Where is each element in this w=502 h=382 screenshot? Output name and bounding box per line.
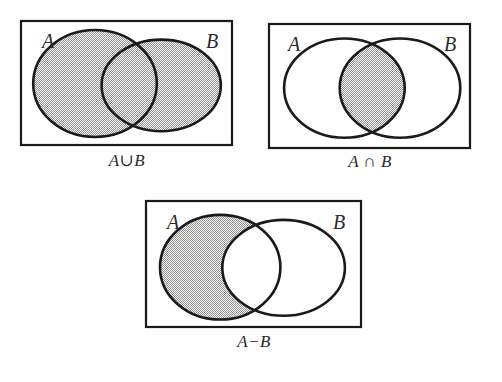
venn-diagram-intersection: A B bbox=[266, 21, 474, 151]
venn-diagram-union: A B bbox=[18, 19, 236, 149]
set-label-a-union: A bbox=[40, 30, 55, 52]
set-label-b-union: B bbox=[206, 30, 218, 52]
caption-intersection: A ∩ B bbox=[266, 152, 474, 172]
panel-union: A B A∪B bbox=[18, 19, 236, 171]
set-label-a-intersection: A bbox=[286, 33, 301, 55]
set-label-b-difference: B bbox=[333, 211, 345, 233]
caption-difference: A−B bbox=[143, 332, 365, 352]
venn-diagram-difference: A B bbox=[143, 199, 365, 331]
venn-figure-page: A B A∪B A bbox=[0, 0, 502, 382]
set-label-a-difference: A bbox=[165, 211, 180, 233]
caption-union: A∪B bbox=[18, 150, 236, 171]
panel-intersection: A B A ∩ B bbox=[266, 21, 474, 172]
set-label-b-intersection: B bbox=[444, 33, 456, 55]
panel-difference: A B A−B bbox=[143, 199, 365, 352]
